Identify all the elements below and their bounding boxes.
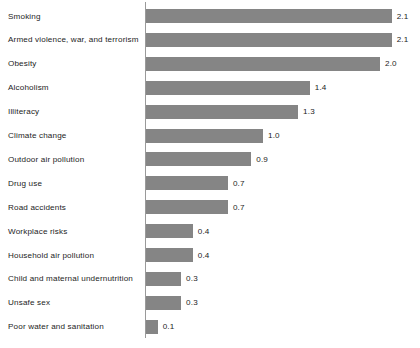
category-label: Smoking [8,4,140,28]
category-label: Household air pollution [8,243,140,267]
bar-value-label: 1.3 [303,106,315,117]
category-label: Poor water and sanitation [8,315,140,339]
bar-value-label: 2.1 [397,34,409,45]
bar-row: Drug use0.7 [0,171,420,195]
bar-row: Household air pollution0.4 [0,243,420,267]
bar-group: 2.1 [146,28,408,52]
bar [146,9,392,23]
bar-value-label: 0.9 [256,154,268,165]
category-label: Alcoholism [8,76,140,100]
category-label: Child and maternal undernutrition [8,267,140,291]
category-label: Armed violence, war, and terrorism [8,28,140,52]
bar-value-label: 0.7 [233,202,245,213]
bar-group: 2.0 [146,52,397,76]
bar-group: 0.4 [146,243,210,267]
bar [146,296,181,310]
bar-value-label: 2.0 [385,58,397,69]
bar [146,272,181,286]
bar-row: Workplace risks0.4 [0,219,420,243]
bar-value-label: 0.3 [186,297,198,308]
bar-value-label: 1.4 [315,82,327,93]
bar-value-label: 0.3 [186,273,198,284]
bar-row: Unsafe sex0.3 [0,291,420,315]
category-label: Workplace risks [8,219,140,243]
horizontal-bar-chart: Smoking2.1Armed violence, war, and terro… [0,0,420,348]
bar [146,33,392,47]
bar [146,176,228,190]
bar [146,129,263,143]
bar-row: Smoking2.1 [0,4,420,28]
bar-value-label: 2.1 [397,11,409,22]
bar-row: Poor water and sanitation0.1 [0,315,420,339]
bar-row: Outdoor air pollution0.9 [0,147,420,171]
bar-row: Child and maternal undernutrition0.3 [0,267,420,291]
bar-row: Armed violence, war, and terrorism2.1 [0,28,420,52]
bar-row: Alcoholism1.4 [0,76,420,100]
bar-value-label: 1.0 [268,130,280,141]
bar-rows-container: Smoking2.1Armed violence, war, and terro… [0,0,420,348]
bar [146,105,298,119]
bar-group: 0.4 [146,219,210,243]
bar-row: Climate change1.0 [0,124,420,148]
bar-row: Illiteracy1.3 [0,100,420,124]
bar-group: 0.7 [146,171,245,195]
bar-group: 0.3 [146,291,198,315]
bar-group: 1.0 [146,124,280,148]
category-label: Climate change [8,124,140,148]
category-label: Road accidents [8,195,140,219]
bar [146,81,310,95]
bar-value-label: 0.1 [163,321,175,332]
bar-group: 0.7 [146,195,245,219]
bar-group: 2.1 [146,4,408,28]
bar [146,248,193,262]
bar-group: 1.4 [146,76,327,100]
bar [146,320,158,334]
bar-value-label: 0.4 [198,250,210,261]
bar-group: 1.3 [146,100,315,124]
category-label: Drug use [8,171,140,195]
category-label: Outdoor air pollution [8,147,140,171]
bar [146,152,251,166]
bar [146,57,380,71]
bar-row: Road accidents0.7 [0,195,420,219]
bar [146,200,228,214]
bar-value-label: 0.7 [233,178,245,189]
bar-group: 0.3 [146,267,198,291]
category-label: Unsafe sex [8,291,140,315]
bar [146,224,193,238]
bar-value-label: 0.4 [198,226,210,237]
bar-row: Obesity2.0 [0,52,420,76]
category-label: Illiteracy [8,100,140,124]
bar-group: 0.9 [146,147,268,171]
bar-group: 0.1 [146,315,174,339]
category-label: Obesity [8,52,140,76]
